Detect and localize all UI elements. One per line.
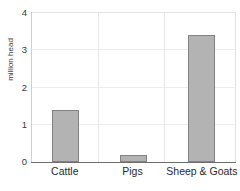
bar-pigs bbox=[120, 155, 147, 163]
category-divider-1 bbox=[98, 12, 99, 162]
category-divider-2 bbox=[164, 12, 165, 162]
bar-sheep-goats bbox=[188, 35, 215, 163]
x-axis-line bbox=[31, 162, 236, 163]
y-tick-label-2: 2 bbox=[5, 83, 27, 93]
x-tick-label-sheep-goats: Sheep & Goats bbox=[166, 165, 234, 177]
plot-area bbox=[31, 12, 236, 162]
y-tick-label-0: 0 bbox=[5, 157, 27, 167]
gridline-4 bbox=[32, 12, 235, 13]
bar-cattle bbox=[52, 110, 79, 163]
x-tick-label-cattle: Cattle bbox=[31, 165, 99, 177]
y-tick-label-4: 4 bbox=[5, 8, 27, 18]
y-tick-label-3: 3 bbox=[5, 45, 27, 55]
bar-chart: million head 4 3 2 1 0 Cattle Pigs Sheep… bbox=[0, 0, 240, 191]
x-tick-label-pigs: Pigs bbox=[99, 165, 167, 177]
y-axis-tick-labels: 4 3 2 1 0 bbox=[0, 0, 27, 191]
x-axis-tick-labels: Cattle Pigs Sheep & Goats bbox=[31, 165, 236, 185]
y-tick-label-1: 1 bbox=[5, 120, 27, 130]
